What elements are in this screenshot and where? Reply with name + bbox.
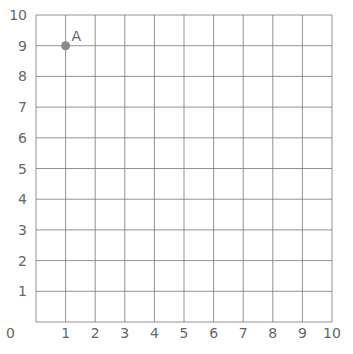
x-tick-label: 1 (61, 325, 70, 341)
y-tick-label: 8 (18, 68, 27, 84)
data-point (61, 41, 70, 50)
y-tick-label: 4 (18, 191, 27, 207)
grid-plot: 12345678910123456789100A (0, 0, 353, 354)
x-tick-label: 10 (323, 325, 341, 341)
y-tick-label: 2 (18, 253, 27, 269)
y-tick-label: 7 (18, 99, 27, 115)
y-tick-label: 10 (9, 7, 27, 23)
x-tick-label: 2 (91, 325, 100, 341)
y-tick-label: 9 (18, 38, 27, 54)
y-tick-label: 6 (18, 130, 27, 146)
x-tick-label: 4 (150, 325, 159, 341)
x-tick-label: 8 (268, 325, 277, 341)
x-tick-label: 3 (120, 325, 129, 341)
x-tick-label: 7 (239, 325, 248, 341)
y-tick-label: 1 (18, 283, 27, 299)
x-tick-label: 5 (180, 325, 189, 341)
y-tick-label: 5 (18, 161, 27, 177)
x-tick-label: 6 (209, 325, 218, 341)
y-tick-label: 3 (18, 222, 27, 238)
x-tick-label: 9 (298, 325, 307, 341)
origin-label: 0 (6, 325, 15, 341)
coordinate-grid: 12345678910123456789100A (0, 0, 353, 354)
point-label: A (72, 28, 82, 44)
